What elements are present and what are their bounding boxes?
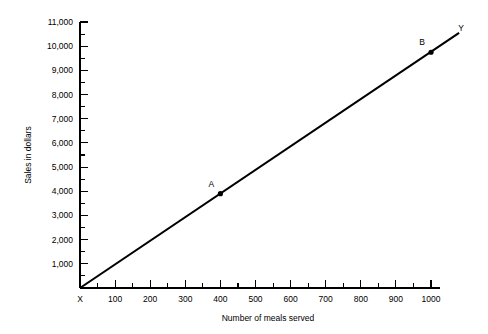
data-series-group — [80, 33, 459, 288]
y-tick-label: 7,000 — [52, 114, 74, 124]
y-tick-label: 3,000 — [52, 210, 74, 220]
x-axis-ticks — [98, 280, 431, 288]
y-axis-tick-labels: 1,0002,0003,0004,0005,0006,0007,0008,000… — [47, 17, 73, 269]
x-tick-label: 700 — [319, 294, 333, 304]
y-tick-label: 1,000 — [52, 259, 74, 269]
data-point-label-a: A — [209, 179, 215, 189]
y-tick-label: 4,000 — [52, 186, 74, 196]
x-tick-label: 600 — [284, 294, 298, 304]
y-tick-label: 8,000 — [52, 90, 74, 100]
y-tick-label: 5,000 — [52, 162, 74, 172]
y-terminal-label: Y — [458, 23, 464, 33]
y-tick-label: 9,000 — [52, 65, 74, 75]
data-point-label-b: B — [419, 37, 425, 47]
y-tick-label: 10,000 — [47, 41, 73, 51]
y-axis-title: Sales in dollars — [23, 126, 33, 184]
x-tick-label: 200 — [143, 294, 157, 304]
axes-group — [80, 22, 440, 288]
x-tick-label: 300 — [178, 294, 192, 304]
x-tick-label: 1000 — [422, 294, 441, 304]
x-tick-label: 800 — [354, 294, 368, 304]
x-tick-label: 400 — [213, 294, 227, 304]
chart-container: 1,0002,0003,0004,0005,0006,0007,0008,000… — [0, 0, 488, 334]
x-axis-title: Number of meals served — [222, 313, 315, 323]
data-point-b — [428, 50, 433, 55]
annotated-points-group: AB — [209, 37, 434, 196]
series-line — [80, 33, 459, 288]
x-tick-label: 100 — [108, 294, 122, 304]
y-axis-ticks — [80, 22, 88, 276]
y-tick-label: 11,000 — [48, 17, 74, 27]
x-origin-label: X — [77, 294, 83, 304]
line-chart-plot: 1,0002,0003,0004,0005,0006,0007,0008,000… — [0, 0, 488, 334]
y-tick-label: 6,000 — [52, 138, 74, 148]
x-tick-label: 900 — [389, 294, 403, 304]
data-point-a — [218, 191, 223, 196]
y-tick-label: 2,000 — [52, 235, 74, 245]
x-axis-tick-labels: X1002003004005006007008009001000 — [77, 294, 441, 304]
x-tick-label: 500 — [248, 294, 262, 304]
